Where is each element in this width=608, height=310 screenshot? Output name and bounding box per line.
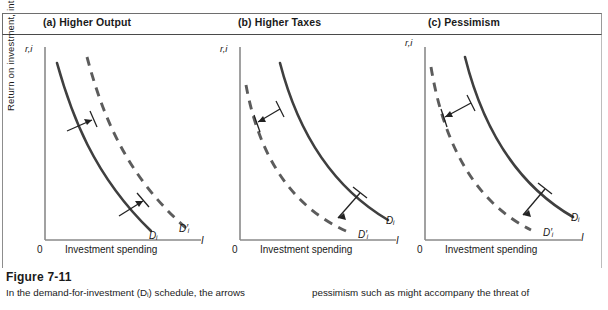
panel-b-label-di-prime: D′ᵢ (358, 229, 368, 240)
panel-c-curve-di-solid (465, 57, 573, 217)
panel-a-y-axis-symbol: r,i (25, 43, 32, 54)
panel-c-origin-label: 0 (417, 244, 423, 255)
panel-a-origin-label: 0 (37, 244, 43, 255)
caption-text-right: pessimism such as might accompany the th… (312, 287, 600, 299)
panel-a-x-axis-symbol: I (201, 235, 204, 246)
y-axis-label: Return on investment, interest rate (5, 0, 16, 111)
panel-b-label-di: Dᵢ (386, 215, 394, 226)
caption-text-left: In the demand-for-investment (Dᵢ) schedu… (6, 287, 296, 299)
panel-header-band: (a) Higher Output (b) Higher Taxes (c) P… (2, 13, 602, 35)
panel-b-x-axis-label: Investment spending (260, 244, 352, 255)
panel-c-plot (403, 35, 593, 268)
figure-number: Figure 7-11 (6, 270, 602, 284)
panel-b-curve-di-solid (280, 63, 388, 220)
panel-b-plot (218, 35, 408, 268)
panel-a-label-di-prime: D′ᵢ (179, 223, 189, 234)
panel-c-label-di: Dᵢ (571, 212, 579, 223)
panel-title-b: (b) Higher Taxes (238, 16, 321, 28)
panel-c-curve-di-dashed (431, 67, 531, 230)
panel-c-x-axis-symbol: I (581, 232, 584, 243)
charts-area: Return on investment, interest rate (2, 35, 602, 268)
panel-a-x-axis-label: Investment spending (65, 244, 157, 255)
panel-c-x-axis-label: Investment spending (445, 244, 537, 255)
panel-a-shift-arrow-1 (67, 111, 97, 131)
panel-b-y-axis-symbol: r,i (220, 43, 227, 54)
panel-title-c: (c) Pessimism (428, 16, 500, 28)
panel-b-shift-arrow-1 (254, 101, 284, 132)
panel-b-curve-di-dashed (246, 85, 346, 231)
panel-c-label-di-prime: D′ᵢ (543, 227, 553, 238)
panel-b-origin-label: 0 (232, 244, 238, 255)
chart-panel-a: r,i I 0 Investment spending Dᵢ D′ᵢ (23, 35, 213, 268)
chart-panel-b: r,i I 0 Investment spending Dᵢ D′ᵢ (218, 35, 408, 268)
panel-c-y-axis-symbol: r,i (405, 37, 412, 48)
panel-b-x-axis-symbol: I (396, 235, 399, 246)
panel-a-label-di: Dᵢ (149, 230, 157, 241)
panel-c-shift-arrow-1 (441, 95, 475, 127)
panel-a-curve-di-solid (57, 63, 151, 231)
figure-caption-block: Figure 7-11 In the demand-for-investment… (6, 270, 602, 287)
figure-container: (a) Higher Output (b) Higher Taxes (c) P… (0, 0, 608, 310)
chart-panel-c: r,i I 0 Investment spending Dᵢ D′ᵢ (403, 35, 593, 268)
panel-title-a: (a) Higher Output (43, 16, 131, 28)
